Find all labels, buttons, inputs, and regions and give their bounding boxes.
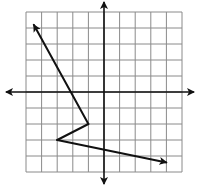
coordinate-grid-diagram xyxy=(0,0,200,187)
path-segment-arrow-bottom-right xyxy=(57,140,166,162)
vector-path xyxy=(34,25,167,163)
axes xyxy=(6,2,194,184)
